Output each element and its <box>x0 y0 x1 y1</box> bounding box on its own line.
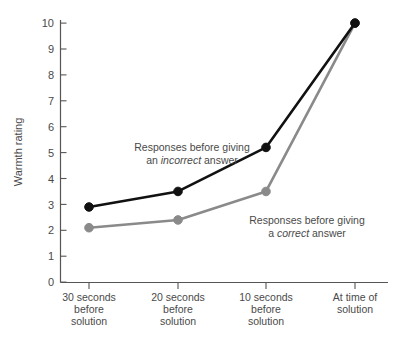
data-point-incorrect <box>174 187 183 196</box>
x-category-line: 10 seconds <box>239 291 293 303</box>
y-tick-label: 7 <box>48 95 54 107</box>
data-point-incorrect <box>262 143 271 152</box>
data-point-correct <box>85 223 94 232</box>
x-category-label: 20 seconds before solution <box>151 291 205 327</box>
x-category-line: At time of <box>333 291 377 303</box>
y-tick-label: 2 <box>48 224 54 236</box>
x-axis-ticks <box>89 283 355 290</box>
y-tick-label: 4 <box>48 173 54 185</box>
cut-off-caption-strip <box>0 334 400 342</box>
x-category-line: before <box>74 303 104 315</box>
y-tick-label: 9 <box>48 43 54 55</box>
y-tick-label: 0 <box>48 276 54 288</box>
chart-figure: 10 9 8 7 6 5 4 3 2 1 0 Warmth rating 30 … <box>0 0 400 342</box>
series-line-incorrect <box>89 23 355 207</box>
y-tick-label: 1 <box>48 250 54 262</box>
y-axis-title: Warmth rating <box>12 118 24 187</box>
data-point-correct <box>174 216 183 225</box>
y-tick-label: 10 <box>42 17 54 29</box>
y-tick-label: 6 <box>48 121 54 133</box>
correct-annotation-line1: Responses before giving <box>249 214 365 226</box>
y-axis-ticks <box>61 23 67 282</box>
correct-annot-pre: a <box>268 227 277 239</box>
y-tick-label: 3 <box>48 199 54 211</box>
y-tick-label: 5 <box>48 147 54 159</box>
incorrect-annotation-line2: an incorrect answer <box>146 154 238 166</box>
warmth-rating-line-chart: 10 9 8 7 6 5 4 3 2 1 0 Warmth rating 30 … <box>0 0 400 342</box>
x-category-line: 20 seconds <box>151 291 205 303</box>
x-category-line: before <box>163 303 193 315</box>
y-axis-tick-labels: 10 9 8 7 6 5 4 3 2 1 0 <box>42 17 54 288</box>
correct-annotation: Responses before giving a correct answer <box>249 214 365 239</box>
data-point-incorrect <box>351 19 360 28</box>
correct-annot-italic: correct <box>277 227 310 239</box>
x-category-line: solution <box>160 315 196 327</box>
x-axis-category-labels: 30 seconds before solution 20 seconds be… <box>62 291 377 327</box>
data-point-correct <box>262 187 271 196</box>
y-tick-label: 8 <box>48 69 54 81</box>
correct-annot-post: answer <box>309 227 346 239</box>
x-category-line: solution <box>248 315 284 327</box>
x-category-line: 30 seconds <box>62 291 116 303</box>
x-category-label: 30 seconds before solution <box>62 291 116 327</box>
correct-annotation-line2: a correct answer <box>268 227 346 239</box>
incorrect-annot-pre: an <box>146 154 161 166</box>
x-category-line: solution <box>337 303 373 315</box>
incorrect-annot-post: answer <box>201 154 238 166</box>
x-category-label: At time of solution <box>333 291 377 315</box>
x-category-label: 10 seconds before solution <box>239 291 293 327</box>
x-category-line: solution <box>71 315 107 327</box>
incorrect-annotation-line1: Responses before giving <box>134 141 250 153</box>
incorrect-annot-italic: incorrect <box>161 154 202 166</box>
series-markers-incorrect <box>85 19 360 211</box>
series-line-correct <box>89 23 355 228</box>
data-point-incorrect <box>85 203 94 212</box>
x-category-line: before <box>251 303 281 315</box>
incorrect-annotation: Responses before giving an incorrect ans… <box>134 141 250 166</box>
